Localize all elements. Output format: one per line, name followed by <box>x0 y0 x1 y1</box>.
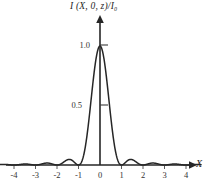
x-tick-label-0: 0 <box>93 170 107 180</box>
y-tick-label-0.5: 0.5 <box>60 100 82 110</box>
x-tick-label-2: 2 <box>136 170 150 180</box>
diffraction-intensity-figure: I (X, 0, z)/I₀ X 1.0 0.5 -4-3-2-101234 <box>0 0 209 190</box>
x-tick-label-4: 4 <box>179 170 193 180</box>
axes-group <box>6 15 197 169</box>
x-tick-label--3: -3 <box>29 170 43 180</box>
x-tick-label--1: -1 <box>72 170 86 180</box>
y-axis-arrowhead <box>96 15 104 23</box>
x-tick-label-3: 3 <box>158 170 172 180</box>
x-axis-title: X <box>196 158 202 169</box>
y-tick-label-1.0: 1.0 <box>68 40 90 50</box>
plot-canvas <box>0 0 209 190</box>
x-tick-label--2: -2 <box>50 170 64 180</box>
x-tick-label--4: -4 <box>7 170 21 180</box>
y-axis-title: I (X, 0, z)/I₀ <box>70 1 118 11</box>
x-tick-label-1: 1 <box>115 170 129 180</box>
